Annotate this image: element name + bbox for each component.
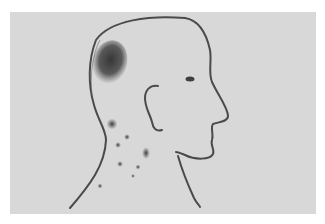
neck-lesion [124, 134, 130, 140]
neck-lesion [107, 119, 118, 130]
neck-lesion [142, 147, 150, 159]
gray-panel [10, 12, 316, 214]
illustration-frame: Line drawing of a bald head in right-fac… [0, 0, 325, 224]
neck-lesion [136, 165, 141, 170]
eye [186, 77, 195, 82]
neck-lesion [115, 142, 121, 148]
head-profile-drawing [0, 0, 325, 224]
neck-lesion [131, 174, 135, 178]
neck-lesion [117, 161, 123, 167]
neck-lesion [98, 184, 103, 189]
